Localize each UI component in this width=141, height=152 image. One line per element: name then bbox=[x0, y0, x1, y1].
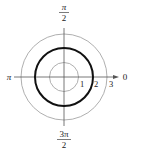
label-3pi-over-2-den: 2 bbox=[62, 140, 67, 150]
label-pi-over-2-den: 2 bbox=[62, 13, 67, 23]
arrowhead-icon bbox=[113, 75, 119, 79]
radius-label-1: 1 bbox=[80, 79, 84, 89]
label-pi: π bbox=[7, 72, 12, 82]
radius-label-2: 2 bbox=[94, 79, 98, 89]
radius-label-3: 3 bbox=[109, 79, 113, 89]
label-pi-over-2-num: π bbox=[62, 2, 67, 12]
label-zero: 0 bbox=[123, 72, 128, 82]
label-3pi-over-2-num: 3π bbox=[59, 129, 69, 139]
polar-graph: π 2 π 0 3π 2 1 2 3 bbox=[0, 0, 141, 152]
